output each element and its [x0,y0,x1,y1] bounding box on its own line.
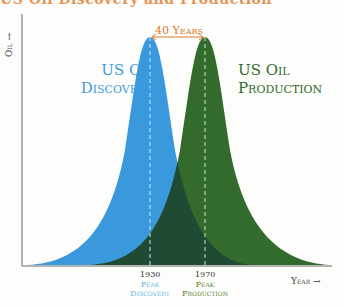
peak-production-line2: Production [175,289,235,298]
production-label-line2: Production [238,79,322,97]
x-axis-label: Year → [291,276,321,286]
forty-years-annotation: 40 Years [154,24,204,37]
discovery-label-line2: Discovery [55,79,153,97]
peak-production-line1: Peak [175,280,235,289]
tick-1970: 1970 [195,270,215,279]
chart-plot [0,0,344,307]
discovery-label: US Oil Discovery [55,61,153,97]
tick-1930: 1930 [140,270,160,279]
y-axis-label: Oil → [4,33,14,57]
production-label: US Oil Production [238,61,322,97]
production-label-line1: US Oil [238,61,322,79]
peak-production-label: Peak Production [175,280,235,298]
peak-discovery-line1: Peak [125,280,175,289]
peak-discovery-label: Peak Discovery [125,280,175,298]
peak-discovery-line2: Discovery [125,289,175,298]
discovery-label-line1: US Oil [55,61,153,79]
